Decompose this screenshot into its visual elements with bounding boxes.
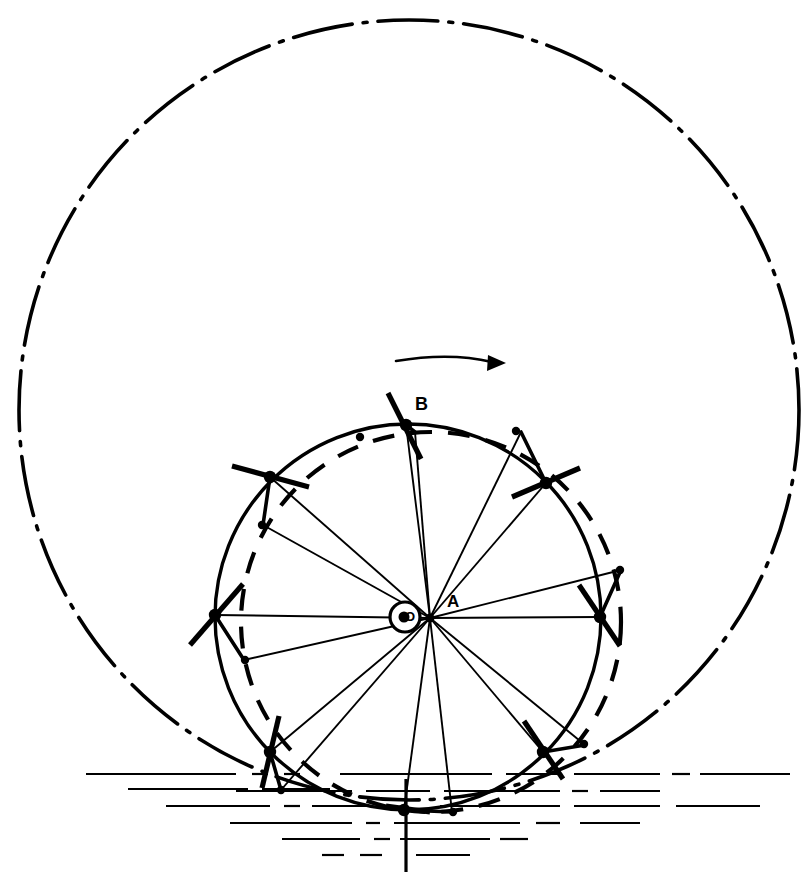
outer-trajectory-circle [19, 20, 799, 800]
rim-joint-dot [398, 804, 410, 816]
feathering-arm-paddle-4 [430, 618, 585, 745]
outer-trajectory-circle-path [19, 20, 799, 800]
spoke-paddle-3 [430, 617, 600, 618]
spoke-center-dot [426, 614, 435, 623]
rim-joint-dot [540, 477, 552, 489]
spoke-paddle-8 [270, 477, 430, 618]
guide-joint-dot [449, 808, 457, 816]
paddle-wheel-diagram: O A B [0, 0, 805, 875]
feathering-arm-paddle-5 [430, 618, 452, 812]
rotation-arrow-head [487, 355, 506, 371]
diagram-canvas: O A B [0, 0, 805, 875]
guide-joint-dot [580, 740, 588, 748]
guide-joint-dot [258, 521, 266, 529]
rim-joint-dot [264, 746, 276, 758]
label-top-rim-point: B [415, 394, 428, 414]
rim-joint-dot [209, 609, 221, 621]
spoke-paddle-6 [270, 618, 430, 752]
label-spoke-center: A [447, 592, 459, 611]
spoke-paddle-5 [404, 618, 430, 810]
rim-joint-dot [264, 471, 276, 483]
guide-joint-dot [616, 566, 624, 574]
feathering-arm-paddle-2 [430, 432, 521, 618]
feathering-arm-paddle-6 [281, 618, 430, 790]
guide-joint-dot [241, 656, 249, 664]
rim-joint-dot [537, 746, 549, 758]
rim-joint-dot [594, 611, 606, 623]
rotation-arrow-shaft [396, 357, 492, 362]
link-paddle-3 [600, 570, 621, 617]
guide-joint-dot [512, 427, 520, 435]
rim-joint-dot [400, 419, 412, 431]
feathering-arm-paddle-1 [415, 432, 430, 618]
label-hub-center: O [405, 609, 415, 624]
spoke-paddle-4 [430, 618, 543, 752]
rotation-direction-arrow [396, 355, 506, 371]
guide-joint-dot [277, 786, 285, 794]
water-hatching-group [86, 774, 790, 872]
guide-joint-dot [356, 433, 364, 441]
